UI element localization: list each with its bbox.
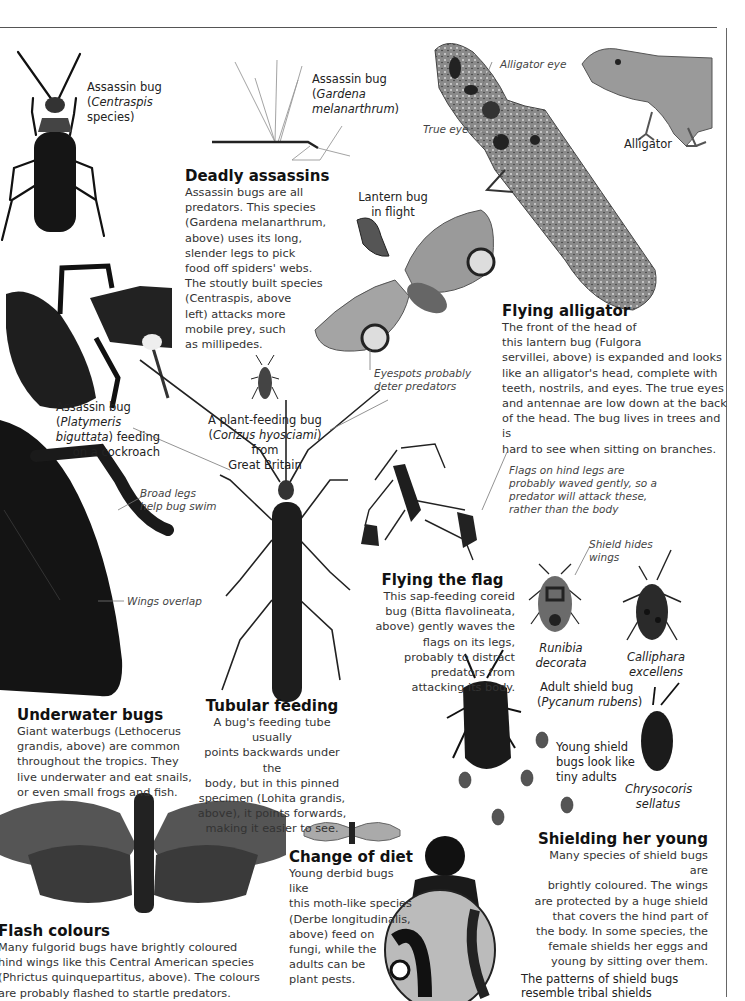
text-line: specimen (Lohita grandis,	[197, 791, 347, 806]
text-line: Young derbid bugs like	[289, 866, 414, 896]
label-tribal-shields: The patterns of shield bugs resemble tri…	[521, 972, 678, 1000]
section-underwater-bugs: Underwater bugs Giant waterbugs (Lethoce…	[17, 706, 197, 800]
text-line: flags on its legs,	[370, 635, 515, 650]
text-line: (Centraspis, above	[185, 291, 345, 306]
text-line: plant pests.	[289, 972, 414, 987]
text-line: young by sitting over them.	[530, 954, 708, 969]
text-line: and antennae are low down at the back	[502, 396, 732, 411]
text-line: as millipedes.	[185, 337, 345, 352]
body-tubular-feeding: A bug's feeding tube usuallypoints backw…	[197, 715, 347, 837]
heading-shielding-her-young: Shielding her young	[530, 830, 708, 848]
text-line: (Gardena melanarthrum,	[185, 215, 345, 230]
section-change-of-diet: Change of diet Young derbid bugs likethi…	[289, 848, 414, 988]
section-tubular-feeding: Tubular feeding A bug's feeding tube usu…	[197, 697, 347, 837]
text-line: probably to distract	[370, 650, 515, 665]
text-line: left) attacks more	[185, 307, 345, 322]
heading-underwater-bugs: Underwater bugs	[17, 706, 197, 724]
text-line: mobile prey, such	[185, 322, 345, 337]
label-shield-hides-wings: Shield hides wings	[589, 538, 653, 564]
text-line: slender legs to pick	[185, 246, 345, 261]
label-chrysocoris: Chrysocoris sellatus	[625, 782, 691, 812]
text-line: above) gently waves the	[370, 619, 515, 634]
text-line: Assassin bugs are all	[185, 185, 345, 200]
text-line: are protected by a huge shield	[530, 894, 708, 909]
body-shielding-her-young: Many species of shield bugs arebrightly …	[530, 848, 708, 970]
text-line: that covers the hind part of	[530, 909, 708, 924]
text-line: food off spiders' webs.	[185, 261, 345, 276]
text-line: hard to see when sitting on branches.	[502, 442, 732, 457]
label-alligator-eye: Alligator eye	[500, 58, 566, 71]
label-adult-shield-bug: Adult shield bug (Pycanum rubens)	[537, 680, 642, 710]
text-line: points backwards under the	[197, 745, 347, 775]
text-line: of the head. The bug lives in trees and …	[502, 411, 732, 441]
text-line: predators from	[370, 665, 515, 680]
text-line: fungi, while the	[289, 942, 414, 957]
section-flying-the-flag: Flying the flag This sap-feeding coreidb…	[370, 571, 515, 695]
text-line: like an alligator's head, complete with	[502, 366, 732, 381]
text-line: (Phrictus quinquepartitus, above). The c…	[0, 970, 288, 985]
label-assassin-centraspis: Assassin bug (Centraspis species)	[87, 80, 162, 125]
text-line: Many fulgorid bugs have brightly coloure…	[0, 940, 288, 955]
text-line: The stoutly built species	[185, 276, 345, 291]
label-broad-legs: Broad legs help bug swim	[140, 487, 217, 513]
label-runibia: Runibia decorata	[533, 641, 589, 671]
label-assassin-platymeris: Assassin bug (Platymeris biguttata) feed…	[30, 400, 160, 460]
heading-deadly-assassins: Deadly assassins	[185, 167, 345, 185]
section-flash-colours: Flash colours Many fulgorid bugs have br…	[0, 922, 288, 1001]
heading-change-of-diet: Change of diet	[289, 848, 414, 866]
text-line: bug (Bitta flavolineata,	[370, 604, 515, 619]
text-line: The front of the head of	[502, 320, 732, 335]
text-line: body, but in this pinned	[197, 776, 347, 791]
label-plant-feeding-bug: A plant-feeding bug (Corizus hyosciami) …	[197, 413, 333, 473]
text-line: above) uses its long,	[185, 231, 345, 246]
text-line: teeth, nostrils, and eyes. The true eyes	[502, 381, 732, 396]
text-line: attacking its body.	[370, 680, 515, 695]
text-line: above), it points forwards,	[197, 806, 347, 821]
label-assassin-gardena: Assassin bug (Gardena melanarthrum)	[312, 72, 399, 117]
label-wings-overlap: Wings overlap	[127, 595, 202, 608]
label-alligator: Alligator	[624, 137, 672, 152]
text-line: servillei, above) is expanded and looks	[502, 350, 732, 365]
text-line: above) feed on	[289, 927, 414, 942]
label-young-shield-bugs: Young shield bugs look like tiny adults	[556, 740, 635, 785]
body-underwater-bugs: Giant waterbugs (Lethocerusgrandis, abov…	[17, 724, 197, 800]
text-line: are probably flashed to startle predator…	[0, 986, 288, 1001]
text-line: or even small frogs and fish.	[17, 785, 197, 800]
heading-flash-colours: Flash colours	[0, 922, 288, 940]
heading-flying-the-flag: Flying the flag	[370, 571, 515, 589]
section-shielding-her-young: Shielding her young Many species of shie…	[530, 830, 708, 970]
body-deadly-assassins: Assassin bugs are allpredators. This spe…	[185, 185, 345, 352]
label-lantern-bug-flight: Lantern bug in flight	[348, 190, 438, 220]
text-line: this moth-like species	[289, 896, 414, 911]
body-change-of-diet: Young derbid bugs likethis moth-like spe…	[289, 866, 414, 988]
text-line: Giant waterbugs (Lethocerus	[17, 724, 197, 739]
text-line: brightly coloured. The wings	[530, 878, 708, 893]
text-line: (Derbe longitudinalis,	[289, 912, 414, 927]
section-flying-alligator: Flying alligator The front of the head o…	[502, 302, 732, 457]
body-flash-colours: Many fulgorid bugs have brightly coloure…	[0, 940, 288, 1001]
text-line: throughout the tropics. They	[17, 754, 197, 769]
text-line: grandis, above) are common	[17, 739, 197, 754]
heading-flying-alligator: Flying alligator	[502, 302, 732, 320]
text-line: Many species of shield bugs are	[530, 848, 708, 878]
text-line: This sap-feeding coreid	[370, 589, 515, 604]
text-line: A bug's feeding tube usually	[197, 715, 347, 745]
text-line: adults can be	[289, 957, 414, 972]
heading-tubular-feeding: Tubular feeding	[197, 697, 347, 715]
label-flags-note: Flags on hind legs are probably waved ge…	[509, 464, 657, 516]
text-line: this lantern bug (Fulgora	[502, 335, 732, 350]
body-flying-the-flag: This sap-feeding coreidbug (Bitta flavol…	[370, 589, 515, 695]
section-deadly-assassins: Deadly assassins Assassin bugs are allpr…	[185, 167, 345, 352]
text-line: predators. This species	[185, 200, 345, 215]
text-line: female shields her eggs and	[530, 939, 708, 954]
text-line: hind wings like this Central American sp…	[0, 955, 288, 970]
label-calliphara: Calliphara excellens	[622, 650, 690, 680]
text-line: live underwater and eat snails,	[17, 770, 197, 785]
label-eyespots: Eyespots probably deter predators	[374, 367, 471, 393]
label-true-eye: True eye	[423, 123, 469, 136]
text-line: making it easier to see.	[197, 821, 347, 836]
body-flying-alligator: The front of the head ofthis lantern bug…	[502, 320, 732, 457]
text-line: the body. In some species, the	[530, 924, 708, 939]
